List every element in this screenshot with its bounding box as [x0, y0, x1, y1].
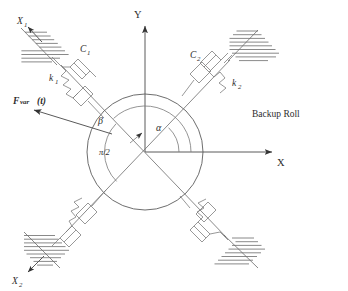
- support-1-axis-label: X 1: [16, 16, 27, 28]
- support-3-damper: [60, 226, 81, 247]
- support-4-spring: [196, 199, 216, 222]
- support-1-spring-label-sub: 1: [55, 78, 58, 85]
- support-1-damper-label-sub: 1: [87, 49, 90, 56]
- support-2-damper-label-main: C: [190, 50, 197, 60]
- support-2-rod: [182, 80, 194, 96]
- support-2-spring-label: k 2: [232, 78, 242, 90]
- force-label-sub: var: [20, 98, 30, 106]
- support-2-damper: [200, 51, 228, 72]
- force-label-main: F: [12, 96, 20, 106]
- figure-canvas: Y X X 1 C 1 k 1 C 2 k 2 X 2: [0, 0, 348, 291]
- backup-roll-caption: Backup Roll: [252, 109, 300, 119]
- support-1-spring-label: k 1: [49, 73, 58, 85]
- support-2-spring-label-sub: 2: [238, 83, 242, 90]
- beta-angle-label: β: [97, 115, 103, 126]
- support-3-direction-arrow: [28, 256, 44, 272]
- force-label: F var (t): [12, 96, 46, 107]
- support-assembly-3: [24, 190, 106, 272]
- support-1-spring-label-main: k: [49, 73, 54, 83]
- pi-over-two-angle-label: π/2: [99, 147, 111, 157]
- x-axis-label: X: [277, 157, 285, 168]
- support-assembly-1: [21, 27, 104, 118]
- support-2-wall-hatching: [230, 31, 280, 61]
- support-3-axis-label-sub: 2: [19, 281, 23, 288]
- support-4-wall-hatching: [215, 238, 266, 264]
- alpha-angle-arc: [169, 128, 179, 152]
- support-axis-2-line: [66, 60, 230, 232]
- technical-diagram: Y X X 1 C 1 k 1 C 2 k 2 X 2: [0, 0, 348, 291]
- y-axis-label: Y: [134, 9, 142, 20]
- support-2-damper-label: C 2: [190, 50, 201, 62]
- support-1-axis-label-sub: 1: [24, 21, 27, 28]
- support-2-spring-label-main: k: [232, 78, 237, 88]
- support-1-axis-label-main: X: [16, 16, 24, 26]
- support-4-wall-face: [224, 235, 258, 268]
- support-1-damper-label: C 1: [80, 44, 90, 56]
- support-2-damper-label-sub: 2: [197, 55, 201, 62]
- support-2-spring: [190, 62, 226, 93]
- support-assembly-4: [180, 196, 265, 268]
- support-4-damper: [190, 222, 220, 242]
- support-1-damper-label-main: C: [80, 44, 87, 54]
- angle-reference-arrow: [130, 133, 142, 143]
- support-1-damper: [62, 59, 96, 79]
- support-1-wall-hatching: [21, 32, 68, 62]
- support-3-axis-label: X 2: [11, 276, 23, 288]
- support-1-wall-face: [21, 28, 57, 65]
- alpha-angle-label: α: [156, 122, 162, 133]
- support-3-spring: [69, 198, 97, 226]
- support-assembly-2: [182, 30, 279, 96]
- support-3-axis-label-main: X: [11, 276, 19, 286]
- support-4-connector-wall: [220, 232, 228, 240]
- force-label-tail: (t): [37, 96, 46, 107]
- support-3-rod: [92, 190, 106, 206]
